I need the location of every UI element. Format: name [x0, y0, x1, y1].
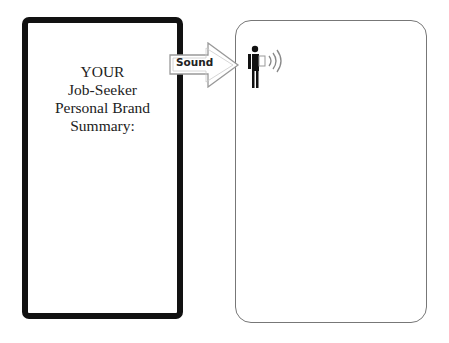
title-line-2: Job-Seeker — [28, 81, 177, 99]
arrow-label: Sound — [176, 56, 212, 68]
personal-brand-summary-title: YOUR Job-Seeker Personal Brand Summary: — [28, 63, 177, 135]
title-line-4: Summary: — [28, 117, 177, 135]
title-line-1: YOUR — [28, 63, 177, 81]
title-line-3: Personal Brand — [28, 99, 177, 117]
person-emitting-sound-icon — [246, 44, 291, 92]
personal-brand-summary-box: YOUR Job-Seeker Personal Brand Summary: — [22, 17, 183, 319]
